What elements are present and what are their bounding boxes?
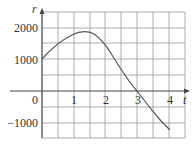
tick-1: 1	[71, 93, 77, 107]
tick-0: 0	[32, 93, 38, 107]
line-chart: r t 2000 1000 −1000 0 1 2 3 4	[0, 0, 195, 145]
tick-3: 3	[135, 93, 141, 107]
tick-2: 2	[103, 93, 109, 107]
tick-4: 4	[167, 93, 173, 107]
tick-neg1000: −1000	[7, 116, 38, 130]
tick-1000: 1000	[14, 53, 38, 67]
grid-lines	[42, 12, 185, 138]
r-curve	[42, 32, 170, 130]
chart-svg: r t 2000 1000 −1000 0 1 2 3 4	[0, 0, 195, 145]
tick-2000: 2000	[14, 21, 38, 35]
y-axis-arrow-icon	[40, 8, 45, 14]
x-axis-label: t	[183, 93, 187, 107]
y-axis-label: r	[32, 2, 37, 16]
